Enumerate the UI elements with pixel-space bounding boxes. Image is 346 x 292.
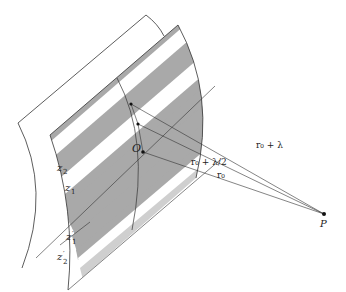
svg-text:2: 2: [63, 168, 67, 176]
svg-text:z: z: [56, 251, 63, 262]
label-r0: r₀: [217, 170, 225, 180]
label-z2-prime: z ′ 2: [56, 250, 67, 266]
label-r0-plus-lambda: r₀ + λ: [256, 140, 283, 150]
label-r0-plus-half-lambda: r₀ + λ/2: [191, 157, 227, 167]
zone-point-outer: [129, 102, 132, 105]
fresnel-zone-diagram: O P r₀ + λ r₀ + λ/2 r₀ z 2 z 1 z ′ 1 z ′…: [0, 0, 346, 292]
label-point-p: P: [319, 218, 327, 229]
svg-text:1: 1: [71, 188, 75, 196]
observation-point: [322, 212, 326, 216]
zone-point-inner: [136, 122, 139, 125]
svg-text:1: 1: [72, 238, 76, 246]
svg-text:z: z: [65, 231, 72, 242]
svg-text:2: 2: [63, 258, 67, 266]
origin-point: [141, 150, 145, 154]
label-origin: O: [132, 142, 141, 155]
svg-text:z: z: [64, 182, 71, 193]
svg-text:′: ′: [63, 250, 65, 258]
svg-text:z: z: [56, 162, 63, 173]
